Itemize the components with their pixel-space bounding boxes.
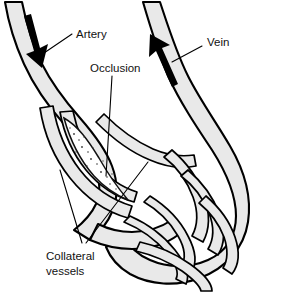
- diagram-canvas: Artery Occlusion Vein Collateral vessels: [0, 0, 283, 300]
- vascular-occlusion-diagram: Artery Occlusion Vein Collateral vessels: [0, 0, 283, 300]
- artery-label: Artery: [76, 28, 107, 40]
- artery-leader-line: [44, 34, 72, 53]
- collateral-vessels-label-line2: vessels: [46, 265, 85, 277]
- vein-label: Vein: [207, 36, 229, 48]
- occlusion-label: Occlusion: [90, 62, 141, 74]
- collateral-vessels-label-line1: Collateral: [46, 250, 95, 262]
